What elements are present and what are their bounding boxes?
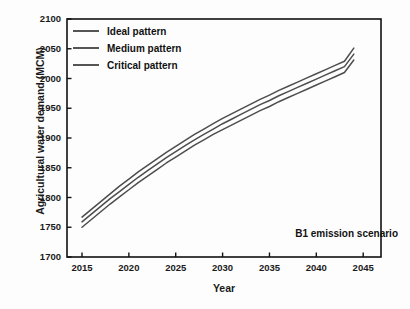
- legend-item-ideal-pattern: Ideal pattern: [73, 24, 181, 38]
- legend-line-icon: [73, 30, 99, 32]
- series-line-medium-pattern: [82, 54, 354, 222]
- plot-area: [0, 0, 410, 309]
- legend-line-icon: [73, 64, 99, 66]
- legend-item-medium-pattern: Medium pattern: [73, 41, 181, 55]
- scenario-annotation: B1 emission scenario: [295, 228, 398, 239]
- legend-line-icon: [73, 47, 99, 49]
- chart-figure: Agricultural water demand (MCM) Year 170…: [0, 0, 410, 309]
- legend-label: Ideal pattern: [107, 26, 166, 37]
- legend-label: Medium pattern: [107, 43, 181, 54]
- series-line-critical-pattern: [82, 60, 354, 227]
- chart-legend: Ideal pattern Medium pattern Critical pa…: [73, 24, 181, 72]
- legend-label: Critical pattern: [107, 60, 178, 71]
- legend-item-critical-pattern: Critical pattern: [73, 58, 181, 72]
